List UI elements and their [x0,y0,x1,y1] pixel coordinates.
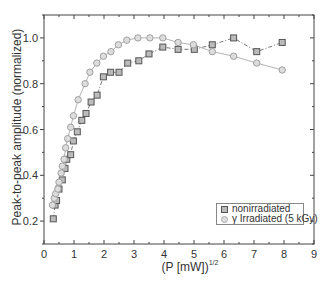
x-axis-label-base: (P [mW]) [162,260,209,274]
square-marker [50,216,56,222]
legend: nonirradiated γ Irradiated (5 kGy) [216,203,304,225]
circle-marker [230,53,236,59]
legend-label: γ Irradiated (5 kGy) [232,214,318,224]
square-marker [125,60,131,66]
square-marker [136,58,142,64]
circle-marker [135,35,141,41]
x-tick-label: 7 [251,248,257,260]
circle-marker [87,69,93,75]
x-tick-label: 9 [311,248,317,260]
square-marker [68,152,74,158]
circle-marker [160,35,166,41]
circle-marker [82,81,88,87]
circle-marker [147,35,153,41]
circle-marker [61,156,67,162]
square-marker-icon [220,205,229,214]
circle-marker [209,48,215,54]
square-marker [79,117,85,123]
y-tick-label: 0.8 [23,78,38,90]
circle-marker [115,42,121,48]
square-marker [100,74,106,80]
square-marker [94,92,100,98]
circle-marker [58,170,64,176]
circle-marker [55,186,61,192]
circle-marker [175,39,181,45]
circle-marker [94,60,100,66]
circle-marker [100,53,106,59]
circle-marker [108,48,114,54]
circle-marker [65,135,71,141]
x-axis-label: (P [mW])1/2 [130,259,250,274]
legend-item-irradiated: γ Irradiated (5 kGy) [217,214,303,224]
circle-marker [70,113,76,119]
x-tick-label: 1 [71,248,77,260]
square-marker [231,35,237,41]
circle-marker [279,67,285,73]
x-axis-label-exponent: 1/2 [209,259,219,266]
square-marker [209,42,215,48]
square-marker [279,39,285,45]
series-line [52,38,282,205]
series-line [53,38,282,219]
square-marker [74,129,80,135]
square-marker [254,49,260,55]
circle-marker-icon [220,215,229,224]
x-tick-label: 8 [281,248,287,260]
circle-marker [56,179,62,185]
circle-marker [190,42,196,48]
square-marker [160,44,166,50]
chart-plot: 01234567890.20.40.60.81.0 [0,0,325,284]
square-marker [146,51,152,57]
y-tick-label: 0.2 [23,215,38,227]
x-tick-label: 2 [101,248,107,260]
y-tick-label: 0.4 [23,169,38,181]
circle-marker [62,145,68,151]
x-tick-label: 0 [41,248,47,260]
square-marker [116,69,122,75]
y-tick-label: 1.0 [23,32,38,44]
square-marker [108,69,114,75]
square-marker [88,99,94,105]
y-tick-label: 0.6 [23,124,38,136]
square-marker [175,46,181,52]
y-axis-label: Peak-to-peak amplitude (normalized) [10,27,24,227]
square-marker [83,110,89,116]
circle-marker [59,163,65,169]
circle-marker [49,202,55,208]
circle-marker [68,124,74,130]
circle-marker [124,37,130,43]
circle-marker [254,60,260,66]
circle-marker [75,97,81,103]
